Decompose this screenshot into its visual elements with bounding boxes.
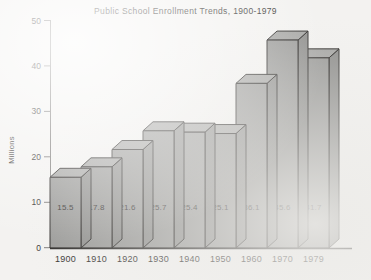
bar-side-face	[174, 122, 184, 248]
x-category-label: 1960	[241, 254, 262, 264]
y-tick-label-30: 30	[32, 106, 42, 116]
x-category-label: 1979	[303, 254, 324, 264]
x-category-label: 1920	[117, 254, 138, 264]
bar-side-face	[298, 31, 308, 248]
bar-value-label: 15.5	[57, 203, 74, 212]
x-category-label: 1950	[210, 254, 231, 264]
y-axis-tick-labels: 50 40 30 20 10 0	[32, 16, 42, 253]
x-category-label: 1910	[86, 254, 107, 264]
chart-screenshot: Public School Enrollment Trends, 1900-19…	[0, 0, 371, 280]
y-tick-label-0: 0	[36, 243, 41, 253]
bar-chart-canvas: 50 40 30 20 10 0 Millions 41.745.636.125…	[0, 0, 371, 280]
bar-side-face	[112, 158, 122, 248]
y-tick-label-20: 20	[32, 152, 42, 162]
y-tick-label-40: 40	[32, 61, 42, 71]
bar-side-face	[329, 49, 339, 248]
bar-series: 41.745.636.125.125.425.721.617.815.5	[50, 31, 339, 248]
x-category-label: 1970	[272, 254, 293, 264]
y-axis-title: Millions	[7, 136, 16, 163]
bar-1900: 15.5	[50, 168, 91, 248]
bar-side-face	[205, 123, 215, 248]
y-tick-label-50: 50	[32, 16, 42, 26]
bar-side-face	[236, 125, 246, 248]
x-category-label: 1900	[55, 254, 76, 264]
y-tick-label-10: 10	[32, 197, 42, 207]
bar-side-face	[81, 168, 91, 248]
bar-front-face	[50, 177, 81, 248]
x-axis-category-labels: 197919701960195019401930192019101900	[55, 254, 324, 264]
bar-side-face	[143, 141, 153, 248]
bar-side-face	[267, 74, 277, 248]
x-category-label: 1930	[148, 254, 169, 264]
x-category-label: 1940	[179, 254, 200, 264]
